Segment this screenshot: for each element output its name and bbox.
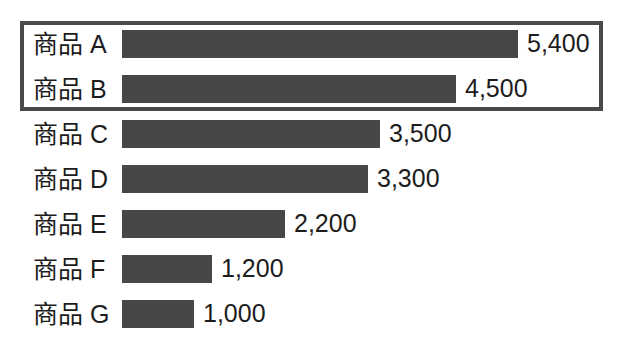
bar-e xyxy=(122,210,285,238)
bar-d xyxy=(122,165,368,193)
bar-f xyxy=(122,255,212,283)
bar-value-a: 5,400 xyxy=(527,31,590,56)
bar-container-g: 1,000 xyxy=(122,300,266,328)
bar-chart: 商品 A 5,400 商品 B 4,500 商品 C 3,500 商品 D 3,… xyxy=(0,0,627,345)
bar-row-label-d: 商品 D xyxy=(33,166,108,191)
bar-row-label-b: 商品 B xyxy=(33,76,107,101)
bar-container-c: 3,500 xyxy=(122,120,452,148)
bar-value-g: 1,000 xyxy=(203,301,266,326)
bar-row-label-c: 商品 C xyxy=(33,121,108,146)
bar-g xyxy=(122,300,194,328)
bar-container-a: 5,400 xyxy=(122,30,590,58)
bar-value-f: 1,200 xyxy=(221,256,284,281)
bar-row-e: 商品 E 2,200 xyxy=(0,201,627,246)
bar-row-label-g: 商品 G xyxy=(33,301,109,326)
bar-container-b: 4,500 xyxy=(122,75,528,103)
bar-row-g: 商品 G 1,000 xyxy=(0,291,627,336)
bar-row-label-e: 商品 E xyxy=(33,211,107,236)
bar-row-label-a: 商品 A xyxy=(33,31,107,56)
bar-c xyxy=(122,120,380,148)
bar-row-b: 商品 B 4,500 xyxy=(0,66,627,111)
bar-value-b: 4,500 xyxy=(465,76,528,101)
bar-value-c: 3,500 xyxy=(389,121,452,146)
bar-container-f: 1,200 xyxy=(122,255,284,283)
bar-row-a: 商品 A 5,400 xyxy=(0,21,627,66)
bar-value-e: 2,200 xyxy=(294,211,357,236)
bar-row-f: 商品 F 1,200 xyxy=(0,246,627,291)
bar-container-d: 3,300 xyxy=(122,165,440,193)
bar-row-c: 商品 C 3,500 xyxy=(0,111,627,156)
bar-row-label-f: 商品 F xyxy=(33,256,105,281)
bar-b xyxy=(122,75,456,103)
bar-a xyxy=(122,30,518,58)
bar-container-e: 2,200 xyxy=(122,210,357,238)
bar-value-d: 3,300 xyxy=(377,166,440,191)
bar-row-d: 商品 D 3,300 xyxy=(0,156,627,201)
